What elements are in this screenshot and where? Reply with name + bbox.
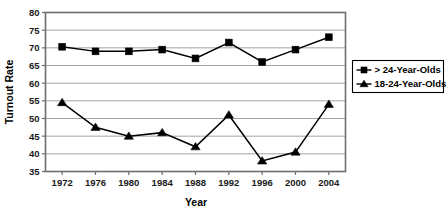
x-tick-label: 1984 bbox=[152, 177, 174, 188]
data-point-marker bbox=[58, 98, 67, 105]
gridlines bbox=[46, 30, 346, 154]
turnout-rate-line-chart: Turnout Rate 35404550556065707580 197219… bbox=[0, 0, 446, 213]
x-tick-label: 1980 bbox=[118, 177, 139, 188]
x-tick-label: 1976 bbox=[85, 177, 106, 188]
data-point-marker bbox=[159, 46, 166, 53]
data-point-marker bbox=[125, 48, 132, 55]
y-axis-title: Turnout Rate bbox=[3, 60, 15, 125]
y-tick-label: 75 bbox=[29, 25, 40, 36]
y-tick-label: 50 bbox=[29, 113, 40, 124]
legend-label: > 24-Year-Olds bbox=[375, 64, 441, 75]
x-tick-label: 2004 bbox=[318, 177, 340, 188]
y-tick-label: 65 bbox=[29, 60, 40, 71]
x-tick-label: 1996 bbox=[252, 177, 273, 188]
x-tick-label: 1972 bbox=[52, 177, 73, 188]
data-point-marker bbox=[224, 111, 233, 118]
y-tick-label: 40 bbox=[29, 148, 40, 159]
x-axis-ticks: 197219761980198419881992199620002004 bbox=[52, 172, 341, 188]
legend-label: 18-24-Year-Olds bbox=[375, 78, 446, 89]
data-point-marker bbox=[158, 128, 167, 135]
chart-container: Turnout Rate 35404550556065707580 197219… bbox=[0, 0, 446, 213]
series-square bbox=[59, 34, 332, 66]
x-tick-label: 1992 bbox=[218, 177, 239, 188]
data-point-marker bbox=[291, 148, 300, 155]
series-layer bbox=[58, 34, 334, 164]
data-point-marker bbox=[259, 59, 266, 66]
y-tick-label: 70 bbox=[29, 42, 40, 53]
series-line bbox=[62, 103, 329, 161]
y-tick-label: 55 bbox=[29, 95, 40, 106]
y-axis-ticks: 35404550556065707580 bbox=[29, 7, 46, 177]
chart-legend: > 24-Year-Olds18-24-Year-Olds bbox=[353, 61, 446, 93]
y-tick-label: 80 bbox=[29, 7, 40, 18]
data-point-marker bbox=[325, 34, 332, 41]
x-tick-label: 2000 bbox=[285, 177, 306, 188]
data-point-marker bbox=[292, 46, 299, 53]
data-point-marker bbox=[361, 67, 367, 73]
y-tick-label: 45 bbox=[29, 131, 40, 142]
y-tick-label: 35 bbox=[29, 166, 40, 177]
data-point-marker bbox=[92, 48, 99, 55]
x-tick-label: 1988 bbox=[185, 177, 206, 188]
data-point-marker bbox=[192, 55, 199, 62]
x-axis-title: Year bbox=[185, 196, 207, 208]
data-point-marker bbox=[225, 39, 232, 46]
data-point-marker bbox=[59, 43, 66, 50]
y-tick-label: 60 bbox=[29, 78, 40, 89]
